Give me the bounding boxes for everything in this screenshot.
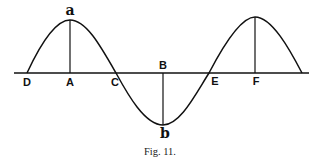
label-F: F (253, 75, 260, 87)
label-B: B (159, 59, 167, 71)
label-b: b (160, 125, 170, 141)
label-D: D (23, 76, 31, 88)
label-E: E (211, 75, 218, 87)
figure-caption: Fig. 11. (144, 146, 176, 157)
label-C: C (111, 76, 119, 88)
label-a: a (65, 2, 74, 18)
wave-diagram: a D A C B E F b Fig. 11. (0, 0, 320, 162)
label-A: A (66, 76, 74, 88)
wave-curve (27, 17, 302, 125)
